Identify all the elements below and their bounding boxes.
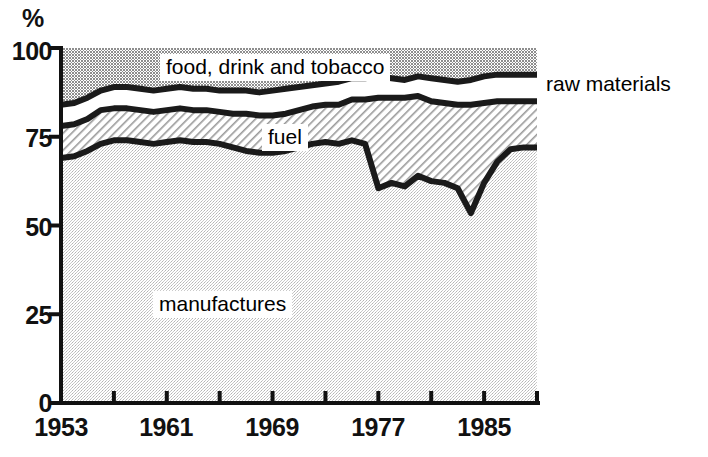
label-fuel: fuel bbox=[262, 124, 308, 151]
y-tick-label-75: 75 bbox=[0, 126, 52, 151]
x-tick-label-1985: 1985 bbox=[439, 415, 529, 440]
y-axis-unit-label: % bbox=[22, 6, 44, 31]
chart-bands bbox=[61, 48, 537, 403]
y-tick-label-100: 100 bbox=[0, 39, 52, 64]
x-tick-label-1953: 1953 bbox=[16, 415, 106, 440]
label-manufactures: manufactures bbox=[153, 291, 292, 318]
x-tick-label-1961: 1961 bbox=[121, 415, 211, 440]
label-raw-materials: raw materials bbox=[546, 72, 671, 96]
x-tick-label-1977: 1977 bbox=[333, 415, 423, 440]
y-tick-label-50: 50 bbox=[0, 215, 52, 240]
chart-figure: % 100 75 50 25 0 1953 1961 1969 1977 198… bbox=[0, 0, 708, 457]
label-food-drink-and-tobacco: food, drink and tobacco bbox=[160, 54, 390, 81]
x-tick-label-1969: 1969 bbox=[227, 415, 317, 440]
y-tick-label-25: 25 bbox=[0, 303, 52, 328]
